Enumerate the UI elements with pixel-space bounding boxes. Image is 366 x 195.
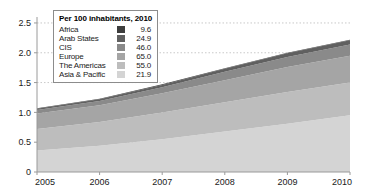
legend-item-label: CIS [59, 43, 117, 52]
legend-title: Per 100 inhabitants, 2010 [59, 14, 152, 23]
legend-item-label: The Americas [59, 61, 117, 70]
legend-color-swatch [117, 35, 125, 42]
legend-item: Asia & Pacific21.9 [59, 70, 152, 79]
legend-rows: Africa9.6Arab States24.9CIS46.0Europe65.… [59, 25, 152, 79]
chart-legend: Per 100 inhabitants, 2010 Africa9.6Arab … [53, 10, 158, 83]
stacked-area-chart: 00.51.01.52.02.5 20052006200720082009201… [0, 0, 366, 195]
legend-item-value: 21.9 [125, 70, 151, 79]
y-axis-tick-label: 1.5 [18, 78, 31, 88]
x-axis-tick-label: 2007 [152, 177, 172, 187]
legend-item: Africa9.6 [59, 25, 152, 34]
y-axis-ticks: 00.51.01.52.02.5 [18, 18, 37, 177]
legend-item: CIS46.0 [59, 43, 152, 52]
x-axis-tick-label: 2008 [215, 177, 235, 187]
x-axis-tick-label: 2005 [35, 177, 55, 187]
legend-item-label: Asia & Pacific [59, 70, 117, 79]
legend-item-value: 55.0 [125, 61, 151, 70]
legend-color-swatch [117, 62, 125, 69]
legend-item-value: 65.0 [125, 52, 151, 61]
legend-item: Arab States24.9 [59, 34, 152, 43]
x-axis-tick-label: 2009 [277, 177, 297, 187]
legend-item-value: 9.6 [125, 25, 151, 34]
x-axis-ticks: 200520062007200820092010 [35, 172, 352, 187]
legend-item-value: 46.0 [125, 43, 151, 52]
legend-item: Europe65.0 [59, 52, 152, 61]
legend-item-label: Europe [59, 52, 117, 61]
legend-color-swatch [117, 26, 125, 33]
x-axis-tick-label: 2010 [332, 177, 352, 187]
legend-item-label: Africa [59, 25, 117, 34]
y-axis-tick-label: 0 [26, 167, 31, 177]
legend-color-swatch [117, 71, 125, 78]
legend-color-swatch [117, 53, 125, 60]
legend-item: The Americas55.0 [59, 61, 152, 70]
y-axis-tick-label: 0.5 [18, 137, 31, 147]
legend-color-swatch [117, 44, 125, 51]
y-axis-tick-label: 1.0 [18, 108, 31, 118]
y-axis-tick-label: 2.5 [18, 18, 31, 28]
y-axis-tick-label: 2.0 [18, 48, 31, 58]
x-axis-tick-label: 2006 [90, 177, 110, 187]
legend-item-label: Arab States [59, 34, 117, 43]
legend-item-value: 24.9 [125, 34, 151, 43]
